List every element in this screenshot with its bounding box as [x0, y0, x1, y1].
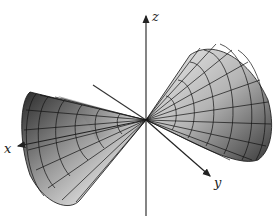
- right-nappe: [146, 44, 272, 161]
- z-axis-label: z: [152, 10, 159, 23]
- double-cone-diagram: [0, 0, 279, 216]
- y-axis-label: y: [214, 176, 221, 189]
- left-nappe: [22, 92, 146, 206]
- x-axis-label: x: [4, 142, 11, 155]
